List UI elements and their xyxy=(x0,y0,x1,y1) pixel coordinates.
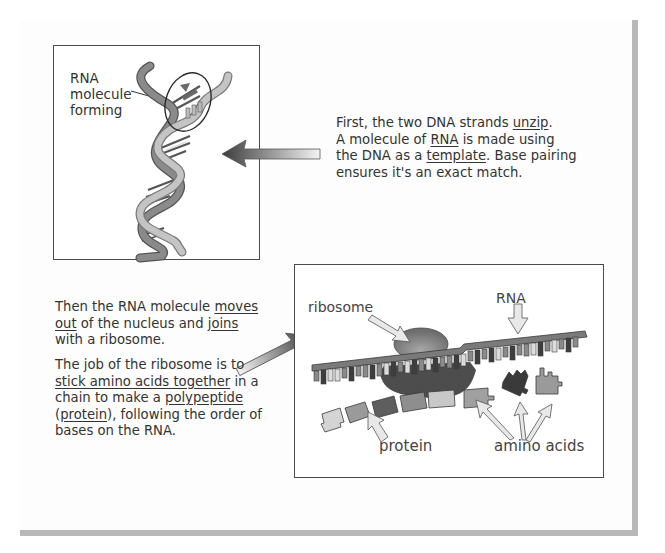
ribosome-illustration xyxy=(0,0,665,553)
